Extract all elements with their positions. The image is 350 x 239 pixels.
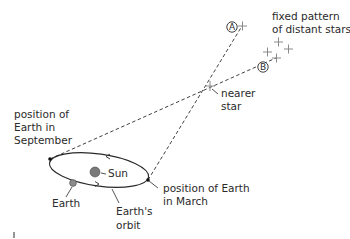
svg-text:B: B <box>260 62 266 72</box>
svg-text:A: A <box>229 22 236 32</box>
nearer-star-label: nearer star <box>221 87 259 112</box>
parallax-diagram: Sun Earth Earth's orbit position of Eart… <box>0 0 350 239</box>
sun-icon <box>90 167 100 177</box>
earth-position-september <box>48 157 52 161</box>
march-label: position of Earth in March <box>163 182 253 207</box>
sightline-september <box>50 58 276 159</box>
marker-b: B <box>258 62 268 72</box>
earth-icon <box>70 180 77 187</box>
earth-label: Earth <box>52 197 80 209</box>
sun-label: Sun <box>108 167 128 179</box>
marker-a: A <box>227 22 237 32</box>
fixed-pattern-label: fixed pattern of distant stars <box>272 10 350 35</box>
orbit-label: Earth's orbit <box>116 205 156 231</box>
september-label: position of Earth in September <box>14 108 73 146</box>
